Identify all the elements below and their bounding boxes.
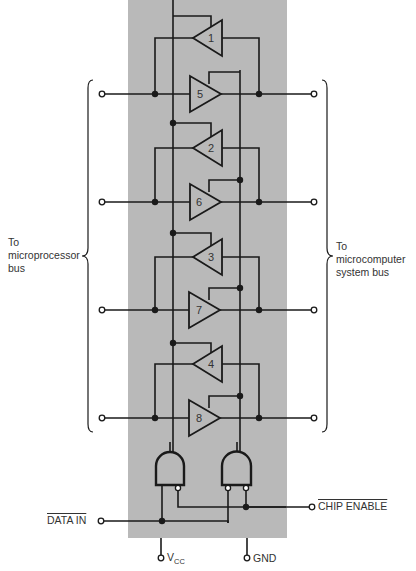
left-bus-label: To microprocessor bus [8,236,80,275]
inverted-input-bubble [243,485,248,490]
left-and-gate [156,452,184,485]
data-in-terminal [98,518,104,524]
amplifier-3-label: 3 [208,251,214,263]
vcc-label: VCC [167,551,185,568]
left-bus-label-line: To [8,236,80,249]
right-bus-label-line: To [336,240,405,253]
chip-body [128,0,287,538]
amplifier-1-label: 1 [208,32,214,44]
amplifier-4-label: 4 [208,358,214,370]
amplifier-7-label: 7 [196,304,202,316]
left-bus-label-line: bus [8,262,80,275]
right-bus-terminal-2 [311,199,317,205]
right-bus-brace [322,80,333,432]
left-bus-terminal-2 [99,199,105,205]
left-bus-brace [82,80,93,432]
amplifier-8-label: 8 [196,412,202,424]
chip-enable-terminal [309,504,315,510]
data-in-label: DATA IN [47,514,86,527]
right-bus-label-line: microcomputer [336,253,405,266]
amplifier-2-label: 2 [208,142,214,154]
amplifier-6-label: 6 [196,196,202,208]
vcc-label-sub: CC [174,557,185,566]
gnd-label: GND [253,552,276,565]
right-and-gate [222,452,251,486]
inverted-input-bubble [225,485,230,490]
gnd-terminal [244,555,250,561]
right-bus-terminal-3 [311,307,317,313]
bus-transceiver-diagram: 1 5 2 6 3 7 4 8 [0,0,416,571]
right-bus-terminal-4 [311,415,317,421]
amplifier-5-label: 5 [197,88,203,100]
inverted-input-bubble [175,485,180,490]
left-bus-label-line: microprocessor [8,249,80,262]
right-bus-label-line: system bus [336,266,405,279]
left-bus-terminal-1 [99,91,105,97]
vcc-terminal [158,555,164,561]
right-bus-terminal-1 [311,91,317,97]
right-bus-label: To microcomputer system bus [336,240,405,279]
left-bus-terminal-3 [99,307,105,313]
left-bus-terminal-4 [99,415,105,421]
vcc-label-main: V [167,551,174,563]
chip-enable-label: CHIP ENABLE [318,500,387,513]
